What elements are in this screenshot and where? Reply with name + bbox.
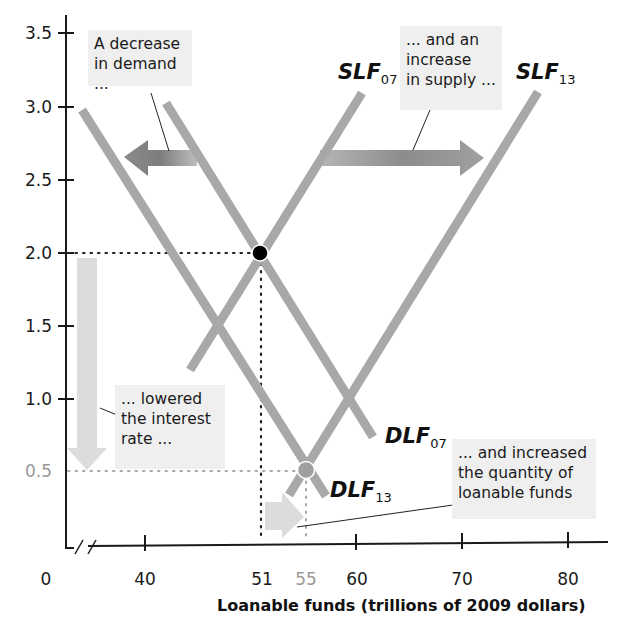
dlf07-label: DLF07 [385, 424, 447, 451]
dlf13-label: DLF13 [330, 478, 392, 505]
callout-interest-rate: ... lowered the interest rate ... [115, 385, 225, 469]
callout-line: rate ... [121, 429, 219, 449]
curve-label-main: SLF [338, 60, 381, 84]
x-tick-70: 70 [451, 569, 473, 589]
y-tick-0.5: 0.5 [25, 461, 52, 481]
interest-rate-down-arrow [67, 258, 107, 470]
x-tick-55: 55 [295, 569, 317, 589]
quantity-right-arrow [265, 492, 304, 538]
curve-label-sub: 07 [430, 436, 447, 451]
x-tick-0: 0 [41, 569, 52, 589]
callout-line: ... lowered [121, 389, 219, 409]
curve-label-sub: 13 [559, 72, 576, 87]
callout-line: the quantity of [458, 463, 590, 483]
equilibrium-point-2007 [252, 245, 268, 261]
axis-break-icon [75, 540, 83, 554]
y-tick-3.0: 3.0 [25, 97, 52, 117]
loanable-funds-chart: 3.5 3.0 2.5 2.0 1.5 1.0 0.5 0 40 51 55 6… [0, 0, 621, 632]
x-tick-80: 80 [557, 569, 579, 589]
callout-line: in demand ... [94, 54, 186, 94]
slf07-curve [190, 93, 362, 370]
slf07-label: SLF07 [338, 60, 397, 87]
callout-line: loanable funds [458, 483, 590, 503]
curve-label-main: SLF [516, 60, 559, 84]
callout-line: increase [406, 50, 496, 70]
y-tick-3.5: 3.5 [25, 23, 52, 43]
y-tick-1.5: 1.5 [25, 316, 52, 336]
callout-line: ... and an [406, 30, 496, 50]
y-tick-2.0: 2.0 [25, 243, 52, 263]
curve-label-main: DLF [330, 478, 375, 502]
callout-line: the interest [121, 409, 219, 429]
supply-shift-arrow [320, 140, 484, 176]
x-tick-40: 40 [134, 569, 156, 589]
callout-line: in supply ... [406, 70, 496, 90]
demand-shift-arrow [124, 140, 197, 176]
callout-demand-decrease: A decrease in demand ... [88, 30, 192, 86]
curve-label-sub: 13 [375, 490, 392, 505]
y-axis: 3.5 3.0 2.5 2.0 1.5 1.0 0.5 [25, 15, 74, 543]
slf13-label: SLF13 [516, 60, 575, 87]
equilibrium-point-2013 [298, 462, 315, 479]
callout-line: A decrease [94, 34, 186, 54]
callout-quantity: ... and increased the quantity of loanab… [452, 439, 596, 519]
callout-line: ... and increased [458, 443, 590, 463]
y-tick-1.0: 1.0 [25, 389, 52, 409]
y-tick-2.5: 2.5 [25, 170, 52, 190]
x-axis-title: Loanable funds (trillions of 2009 dollar… [217, 596, 586, 615]
x-tick-51: 51 [251, 569, 273, 589]
curve-label-main: DLF [385, 424, 430, 448]
x-tick-60: 60 [346, 569, 368, 589]
curve-label-sub: 07 [381, 72, 398, 87]
callout-supply-increase: ... and an increase in supply ... [400, 26, 502, 110]
x-axis: 0 40 51 55 60 70 80 [41, 532, 608, 589]
